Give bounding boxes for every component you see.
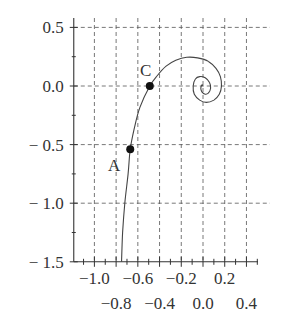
y-tick-label: 0.0: [43, 77, 64, 96]
spiral-curve: [122, 57, 222, 262]
point-c-label: C: [140, 61, 151, 80]
x-tick-label: −0.4: [144, 294, 175, 313]
point-a-label: A: [108, 156, 121, 175]
x-tick-label: −1.0: [79, 269, 110, 288]
marked-points: AC: [108, 61, 154, 175]
x-tick-label: 0.0: [192, 294, 213, 313]
x-tick-label: 0.2: [214, 269, 235, 288]
x-tick-labels: −1.0−0.6−0.20.2−0.8−0.40.00.4: [79, 269, 258, 313]
point-a-marker: [126, 145, 134, 153]
point-c-marker: [146, 82, 154, 90]
x-tick-label: 0.4: [236, 294, 258, 313]
x-tick-label: −0.6: [122, 269, 153, 288]
grid-lines: [74, 18, 270, 262]
y-tick-labels: 0.50.0− 0.5− 1.0− 1.5: [29, 18, 64, 271]
axis-ticks: [70, 27, 258, 266]
chart: 0.50.0− 0.5− 1.0− 1.5 −1.0−0.6−0.20.2−0.…: [0, 0, 286, 335]
y-tick-label: − 0.5: [29, 136, 64, 155]
x-tick-label: −0.8: [101, 294, 132, 313]
axes: [74, 18, 258, 262]
y-tick-label: − 1.0: [29, 194, 64, 213]
x-tick-label: −0.2: [166, 269, 197, 288]
y-tick-label: − 1.5: [29, 253, 64, 272]
y-tick-label: 0.5: [43, 18, 64, 37]
